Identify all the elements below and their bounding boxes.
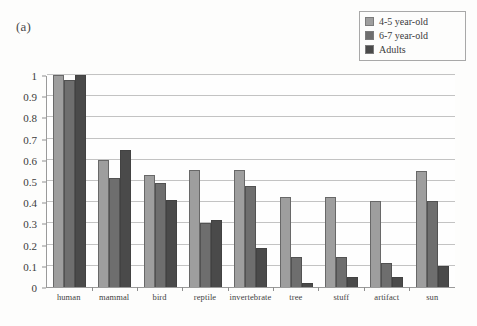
bar [144, 175, 155, 287]
bar [211, 220, 222, 287]
legend-label: 6-7 year-old [379, 30, 428, 41]
legend-label: Adults [379, 44, 406, 55]
bar-group [274, 76, 319, 287]
bar [200, 223, 211, 287]
bar [427, 201, 438, 287]
x-axis-tick-mark [137, 287, 138, 291]
figure-panel: (a) 4-5 year-old 6-7 year-old Adults 10.… [0, 0, 477, 326]
bar [234, 170, 245, 287]
y-axis-tick-label: 0.1 [23, 261, 37, 273]
legend-item: 6-7 year-old [365, 29, 461, 42]
bar [370, 201, 381, 287]
x-axis-tick-mark [409, 287, 410, 291]
y-axis-tick-label: 0.7 [23, 134, 37, 146]
legend-item: 4-5 year-old [365, 15, 461, 28]
bar [109, 178, 120, 287]
y-axis-tick-label: 0.6 [23, 155, 37, 167]
bar-group [183, 76, 228, 287]
legend-swatch-4-5-year-old [365, 17, 374, 26]
y-axis-tick-label: 0.4 [23, 197, 37, 209]
x-axis-tick-label: artifact [364, 292, 409, 302]
x-axis-tick-mark [228, 287, 229, 291]
bar-group [92, 76, 137, 287]
bar [166, 200, 177, 287]
x-axis-tick-label: mammal [91, 292, 136, 302]
bar [347, 277, 358, 287]
x-axis-tick-mark [92, 287, 93, 291]
plot-area [46, 76, 455, 288]
bar [302, 283, 313, 287]
bar [98, 160, 109, 287]
bar [336, 257, 347, 287]
bar [256, 248, 267, 287]
bar [245, 186, 256, 287]
y-axis-tick-label: 0.2 [23, 240, 37, 252]
y-axis-tick-label: 0.9 [23, 91, 37, 103]
legend-label: 4-5 year-old [379, 16, 428, 27]
y-axis-tick-label: 0 [32, 282, 38, 294]
bar [189, 170, 200, 287]
x-axis-tick-label: invertebrate [228, 292, 273, 302]
bar-group [364, 76, 409, 287]
legend-swatch-adults [365, 45, 374, 54]
bar-groups [47, 76, 455, 287]
y-axis: 10.90.80.70.60.50.40.30.20.10 [0, 70, 46, 294]
panel-label: (a) [16, 19, 31, 35]
bar [155, 183, 166, 287]
bar-group [410, 76, 455, 287]
bar [120, 150, 131, 287]
bar-group [319, 76, 364, 287]
y-axis-tick-label: 0.5 [23, 176, 37, 188]
x-axis-tick-mark [273, 287, 274, 291]
x-axis-labels: humanmammalbirdreptileinvertebratetreest… [46, 292, 455, 302]
x-axis-tick-mark [182, 287, 183, 291]
x-axis-tick-label: bird [137, 292, 182, 302]
x-axis-tick-mark [318, 287, 319, 291]
x-axis-tick-mark [364, 287, 365, 291]
bar [381, 263, 392, 287]
bar-group [138, 76, 183, 287]
bar [392, 277, 403, 287]
bar [53, 75, 64, 287]
bar [291, 257, 302, 287]
y-axis-tick-label: 1 [32, 70, 38, 82]
x-axis-tick-label: sun [410, 292, 455, 302]
x-axis-tick-label: human [46, 292, 91, 302]
bar-group [47, 76, 92, 287]
gridline [47, 74, 455, 75]
legend-item: Adults [365, 43, 461, 56]
x-axis-tick-label: tree [273, 292, 318, 302]
bar [75, 75, 86, 287]
x-axis-tick-label: stuff [319, 292, 364, 302]
x-axis-tick-label: reptile [182, 292, 227, 302]
y-axis-tick-label: 0.3 [23, 218, 37, 230]
bar-group [228, 76, 273, 287]
bar [280, 197, 291, 287]
bar [325, 197, 336, 287]
chart-legend: 4-5 year-old 6-7 year-old Adults [359, 11, 466, 61]
y-axis-tick-label: 0.8 [23, 112, 37, 124]
bar [438, 266, 449, 287]
legend-swatch-6-7-year-old [365, 31, 374, 40]
bar [416, 171, 427, 287]
bar [64, 80, 75, 287]
